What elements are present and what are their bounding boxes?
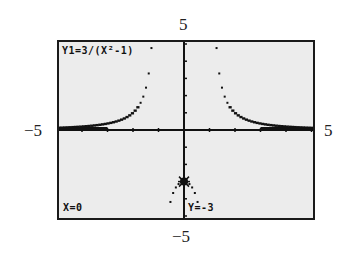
calculator-screen: Y1=3/(X²-1) X=0 Y=-3 <box>57 40 315 220</box>
trace-x-value: X=0 <box>63 203 83 213</box>
graph-plot <box>59 42 313 218</box>
xmin-label: −5 <box>24 122 42 139</box>
ymin-label: −5 <box>172 228 190 245</box>
trace-y-value: Y=-3 <box>188 203 214 213</box>
trace-cursor-icon <box>178 176 190 188</box>
xmax-label: 5 <box>324 122 333 139</box>
ymax-label: 5 <box>179 16 188 33</box>
equation-label: Y1=3/(X²-1) <box>62 46 134 56</box>
